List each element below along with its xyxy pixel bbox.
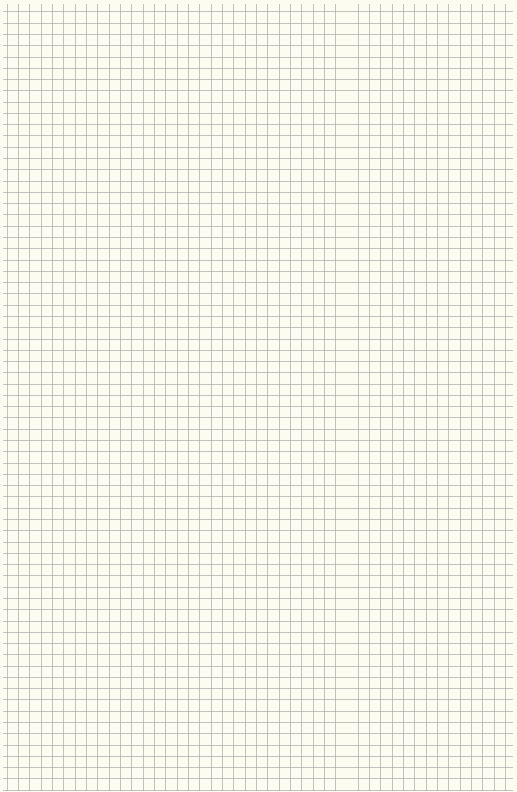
graph-paper-sheet [0, 0, 517, 792]
grid-lines [3, 4, 513, 791]
